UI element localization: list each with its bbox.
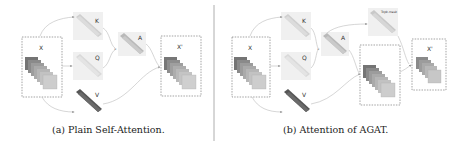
caption-b: (b) Attention of AGAT. — [283, 124, 388, 135]
value-label: V — [95, 91, 100, 98]
output-x-stack-b — [416, 57, 441, 83]
query-label-b: Q — [302, 54, 307, 61]
value-label-b: V — [302, 91, 307, 98]
caption-a: (a) Plain Self-Attention. — [52, 124, 165, 135]
topk-mask-label: Topk-mask — [380, 10, 397, 14]
arrow-a-to-mask — [327, 24, 367, 33]
arrow-q-to-mul — [103, 50, 115, 68]
arrow-a-to-weighted — [349, 50, 359, 73]
attention-diagram: X K Q V — [0, 0, 469, 150]
key-block-b — [281, 12, 311, 40]
weighted-value-stack — [363, 65, 395, 97]
query-label: Q — [95, 54, 100, 61]
arrow-weighted-to-out — [400, 65, 411, 72]
input-x-label: X — [39, 44, 43, 51]
arrow-x-to-v — [42, 97, 74, 112]
arrow-k-to-mul — [103, 28, 115, 48]
input-x-stack-b — [234, 57, 266, 89]
arrow-a-to-out — [146, 44, 159, 66]
arrow-q-to-mul-b — [311, 50, 318, 68]
arrow-x-to-v-b — [252, 97, 282, 112]
panel-a: X K Q V — [22, 12, 201, 135]
arrow-k-to-mul-b — [311, 28, 318, 48]
output-x-label: X' — [177, 43, 183, 50]
input-x-stack — [25, 57, 57, 89]
arrow-v-to-weighted — [311, 74, 360, 104]
output-x-stack — [164, 57, 196, 89]
arrow-v-to-out — [103, 67, 160, 104]
arrow-x-to-k-b — [250, 17, 282, 36]
arrow-mask-to-out — [398, 36, 409, 64]
arrow-x-to-k — [40, 17, 74, 36]
output-x-label-b: X' — [427, 45, 433, 52]
input-x-label-b: X — [248, 44, 252, 51]
panel-b: X K Q V — [232, 8, 446, 135]
